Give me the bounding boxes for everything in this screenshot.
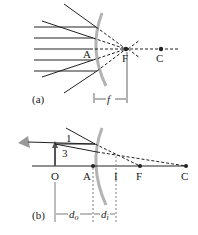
convex-mirror-diagram: A F C (a) f 1 3 O A [0, 0, 198, 235]
focal-point-a [124, 47, 128, 51]
center-point-a [159, 47, 163, 51]
label-focal-length: f [107, 93, 112, 105]
label-c-b: C [181, 170, 188, 182]
virtual-rays [90, 27, 178, 71]
label-a: A [83, 48, 91, 60]
label-c: C [156, 52, 163, 64]
caption-b: (b) [32, 209, 45, 222]
caption-a: (a) [32, 93, 45, 106]
label-di: di [101, 208, 109, 222]
label-o: O [51, 170, 59, 182]
figure-b: 1 3 O A I F C (b) do di [18, 128, 188, 222]
label-a-b: A [83, 170, 91, 182]
label-do: do [69, 208, 79, 222]
label-f-b: F [136, 170, 142, 182]
label-ray1: 1 [66, 132, 72, 144]
figure-a: A F C (a) f [32, 4, 178, 106]
label-ray3: 3 [62, 147, 68, 159]
